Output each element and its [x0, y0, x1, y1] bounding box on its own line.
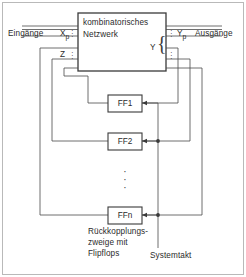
block-title-line1: kombinatorisches — [83, 19, 148, 28]
label-state-signal: Z — [60, 51, 65, 60]
flipflop-label-ff1: FF1 — [108, 99, 142, 108]
caption-clock: Systemtakt — [150, 252, 192, 261]
flipflop-label-ff2: FF2 — [108, 137, 142, 146]
caption-feedback-line1: Rückkopplungs- — [88, 228, 148, 237]
caption-feedback-line2: zweige mit — [88, 239, 128, 248]
label-inputs: Eingänge — [8, 30, 43, 39]
state-bus-ellipsis-icon: · · · — [71, 51, 74, 61]
output-signal-subscript: p — [183, 33, 187, 40]
output-bus-ellipsis-icon: · · · — [170, 29, 173, 39]
label-input-signal: Xp — [60, 30, 69, 40]
caption-feedback-line3: Flipflops — [88, 250, 119, 259]
label-output-bundle: Y — [150, 44, 156, 53]
flipflop-stack-ellipsis-icon: · · · — [119, 168, 131, 192]
figure-canvas: Eingänge Xp · · · kombinatorisches Netzw… — [0, 0, 246, 277]
label-outputs: Ausgänge — [195, 30, 233, 39]
input-bus-ellipsis-icon: · · · — [71, 29, 74, 39]
output-bundle-brace-icon: { — [157, 32, 167, 55]
flipflop-label-ffn: FFn — [108, 211, 142, 220]
block-title-line2: Netzwerk — [83, 31, 118, 40]
output-state-ellipsis-icon: · · · — [170, 51, 173, 61]
label-output-signal: Yp — [177, 30, 186, 40]
input-signal-subscript: p — [66, 33, 70, 40]
